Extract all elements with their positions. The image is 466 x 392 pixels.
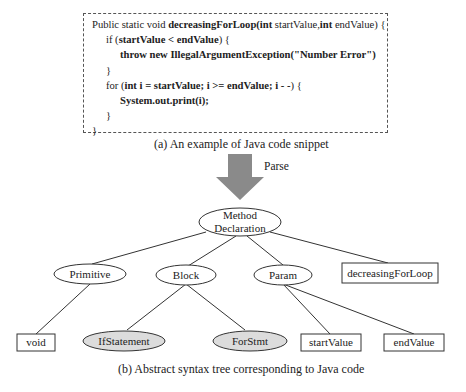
- svg-text:void: void: [26, 336, 46, 348]
- node-param: Param: [254, 265, 312, 285]
- svg-text:decreasingForLoop: decreasingForLoop: [347, 267, 433, 279]
- node-end-value: endValue: [384, 334, 444, 351]
- svg-text:ForStmt: ForStmt: [232, 335, 268, 347]
- parse-arrow-icon: [216, 154, 264, 200]
- node-for-stmt: ForStmt: [213, 331, 287, 351]
- svg-text:Primitive: Primitive: [70, 268, 111, 280]
- node-method-name: decreasingForLoop: [342, 263, 438, 283]
- svg-text:IfStatement: IfStatement: [98, 335, 149, 347]
- node-method-declaration: Method Declaration: [199, 208, 281, 236]
- node-void: void: [17, 334, 55, 351]
- node-primitive: Primitive: [54, 264, 126, 284]
- ast-diagram: Method Declaration Primitive Block Param…: [0, 0, 466, 392]
- node-if-statement: IfStatement: [83, 331, 165, 351]
- node-block: Block: [156, 265, 216, 285]
- caption-b: (b) Abstract syntax tree corresponding t…: [118, 362, 364, 377]
- svg-text:Block: Block: [173, 269, 200, 281]
- svg-text:endValue: endValue: [394, 336, 435, 348]
- node-start-value: startValue: [301, 334, 361, 351]
- svg-text:Param: Param: [269, 269, 298, 281]
- svg-text:Declaration: Declaration: [214, 222, 266, 234]
- svg-text:Method: Method: [223, 209, 258, 221]
- svg-text:startValue: startValue: [309, 336, 353, 348]
